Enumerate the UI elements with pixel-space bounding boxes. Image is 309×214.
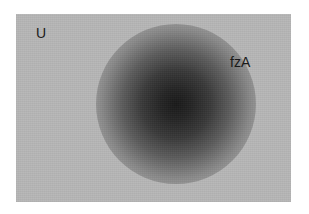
grain-texture — [16, 14, 291, 202]
photo-panel: U fzA — [16, 14, 291, 202]
figure-canvas: U fzA — [0, 0, 309, 214]
label-fza: fzA — [230, 55, 250, 69]
label-u: U — [36, 26, 46, 40]
